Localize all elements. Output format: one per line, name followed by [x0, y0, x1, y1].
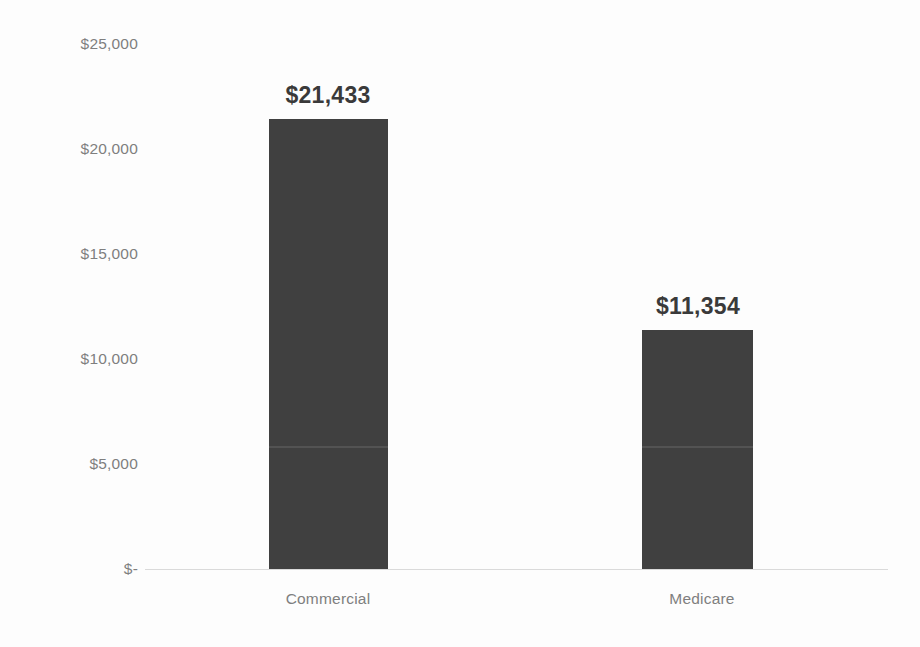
category-label-commercial: Commercial	[286, 590, 371, 608]
plot-area: $21,433 $11,354 Commercial Medicare	[0, 0, 920, 647]
bar-chart: $25,000 $20,000 $15,000 $10,000 $5,000 $…	[0, 0, 920, 647]
data-label-commercial: $21,433	[285, 82, 370, 109]
bar-medicare[interactable]	[642, 330, 753, 569]
data-label-medicare: $11,354	[656, 293, 740, 320]
x-axis-line	[145, 569, 888, 570]
category-label-medicare: Medicare	[669, 590, 734, 608]
bar-commercial[interactable]	[269, 119, 388, 569]
